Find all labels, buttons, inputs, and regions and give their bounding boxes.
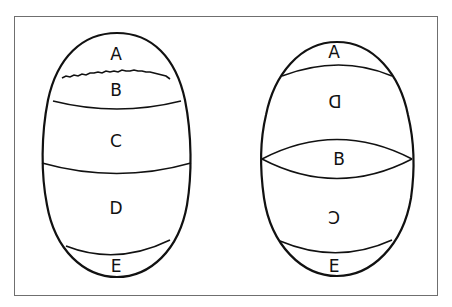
right-region-b-label: B: [333, 149, 345, 169]
left-region-e-label: E: [111, 256, 122, 276]
left-egg-divider-de: [66, 240, 170, 255]
right-region-e-label: E: [329, 256, 340, 276]
right-egg-divider-ce: [280, 240, 392, 253]
left-region-d-label: D: [109, 198, 122, 218]
left-region-b-label: B: [110, 80, 122, 100]
right-region-c-label-mirrored: C: [328, 208, 340, 228]
egg-diagram: A B C D E A D B C E: [0, 0, 452, 307]
left-egg-divider-cd: [42, 163, 191, 174]
right-egg-divider-ad: [282, 65, 392, 76]
left-egg: A B C D E: [42, 33, 191, 277]
left-region-c-label: C: [110, 131, 122, 151]
left-egg-divider-bc: [53, 101, 181, 109]
left-egg-crack-line: [62, 70, 170, 79]
left-region-a-label: A: [110, 44, 122, 64]
right-region-d-label-mirrored: D: [328, 92, 341, 112]
right-region-a-label: A: [328, 42, 340, 62]
right-egg: A D B C E: [261, 42, 413, 276]
